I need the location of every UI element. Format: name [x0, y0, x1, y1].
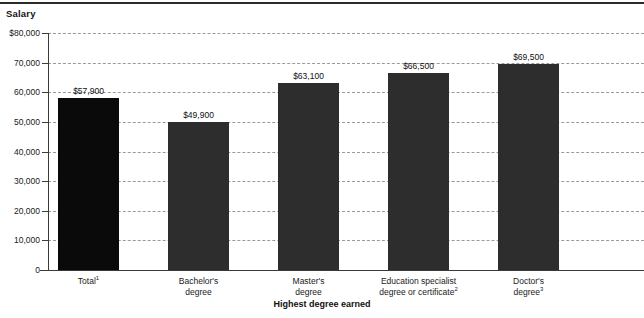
bar-value-label: $63,100: [293, 71, 324, 81]
bar-value-label: $57,900: [73, 86, 104, 96]
bar-value-label: $69,500: [513, 52, 544, 62]
y-axis-tick-label: $80,000: [0, 28, 40, 38]
y-axis-title: Salary: [6, 8, 36, 19]
bar: [388, 73, 449, 270]
y-axis-tick-label: 30,000: [0, 176, 40, 186]
bar: [58, 98, 119, 270]
gridline: [48, 33, 644, 34]
y-axis-tick-label: 60,000: [0, 87, 40, 97]
bar-value-label: $66,500: [403, 61, 434, 71]
y-axis-tick-label: 20,000: [0, 206, 40, 216]
y-axis-tick-label: 10,000: [0, 235, 40, 245]
y-axis-tick-label: 40,000: [0, 147, 40, 157]
bar: [498, 64, 559, 270]
y-axis-tick-label: 50,000: [0, 117, 40, 127]
y-axis-tick-label: 0: [0, 265, 40, 275]
bar-value-label: $49,900: [183, 110, 214, 120]
top-divider-rule: [0, 2, 644, 4]
bar: [168, 122, 229, 270]
x-axis-category-label: Doctor'sdegree3: [454, 276, 604, 298]
y-axis-tick-label: 70,000: [0, 58, 40, 68]
x-axis-title: Highest degree earned: [0, 299, 644, 309]
y-axis-line: [48, 33, 49, 271]
salary-bar-chart: Salary $80,00070,00060,00050,00040,00030…: [0, 0, 644, 318]
x-axis-line: [40, 270, 644, 271]
bar: [278, 83, 339, 270]
